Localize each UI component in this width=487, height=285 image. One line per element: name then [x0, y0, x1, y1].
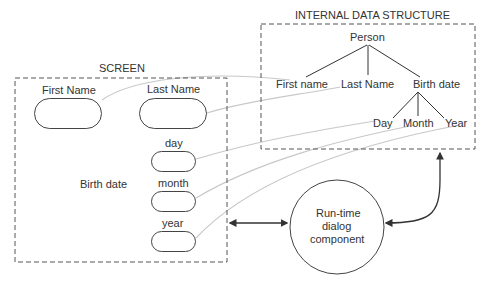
year-label: year	[162, 218, 183, 229]
month-input[interactable]	[151, 191, 196, 212]
dialog-line-1: Run-time	[316, 208, 361, 219]
node-last-name: Last Name	[341, 79, 394, 90]
dialog-line-3: component	[310, 234, 364, 245]
day-input[interactable]	[151, 151, 196, 172]
birth-date-label: Birth date	[80, 179, 127, 190]
first-name-label: First Name	[42, 85, 96, 96]
day-label: day	[165, 138, 183, 149]
year-input[interactable]	[151, 231, 196, 252]
internal-title: INTERNAL DATA STRUCTURE	[295, 10, 450, 21]
month-label: month	[158, 178, 189, 189]
node-birth-date: Birth date	[413, 79, 460, 90]
first-name-input[interactable]	[34, 98, 102, 129]
last-name-label: Last Name	[147, 84, 200, 95]
dialog-data-arrow	[386, 153, 440, 223]
dialog-line-2: dialog	[322, 221, 351, 232]
node-person: Person	[350, 32, 385, 43]
screen-title: SCREEN	[99, 63, 145, 74]
node-month: Month	[403, 118, 434, 129]
diagram-canvas	[0, 0, 487, 285]
node-first-name: First name	[276, 79, 328, 90]
node-day: Day	[373, 118, 393, 129]
last-name-input[interactable]	[139, 98, 207, 129]
node-year: Year	[445, 118, 467, 129]
